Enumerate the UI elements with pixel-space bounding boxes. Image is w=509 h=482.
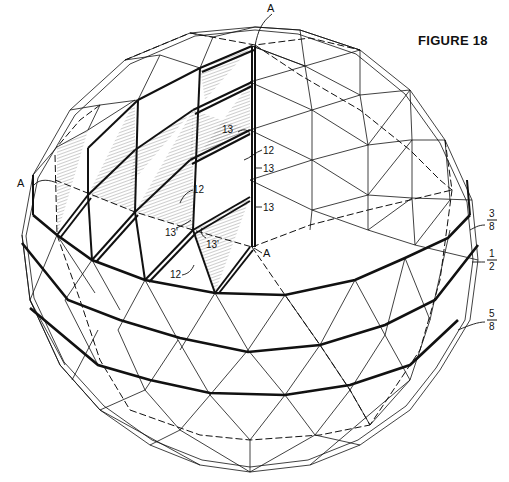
part-label-12-c: 12 [170, 269, 182, 280]
fraction-3-8: 3 8 [487, 208, 497, 232]
section-mark-a-top: A [267, 2, 275, 14]
section-mark-a-left: A [17, 177, 25, 189]
fraction-5-8: 5 8 [487, 308, 497, 332]
fraction-1-2: 1 2 [487, 248, 497, 272]
panel-strips [33, 46, 470, 293]
part-label-12-b: 12 [193, 184, 205, 195]
fraction-numerator: 3 [489, 208, 495, 219]
section-mark-a-bottom: A [263, 247, 271, 259]
figure-title: FIGURE 18 [418, 33, 488, 48]
geodesic-sphere-figure: A A A 13 12 13 13 12 13' 13' 12 3 8 1 2 … [0, 0, 509, 482]
fraction-denominator: 8 [489, 321, 495, 332]
part-label-12-a: 12 [263, 145, 275, 156]
part-label-13-prime-a: 13' [165, 227, 178, 238]
fraction-numerator: 5 [489, 308, 495, 319]
part-label-13-prime-b: 13' [206, 239, 219, 250]
part-label-13-b: 13 [263, 163, 275, 174]
fraction-denominator: 2 [489, 261, 495, 272]
fraction-numerator: 1 [489, 248, 495, 259]
part-label-13-a: 13 [222, 124, 234, 135]
fraction-labels: 3 8 1 2 5 8 [487, 208, 497, 332]
fraction-denominator: 8 [489, 221, 495, 232]
part-label-13-c: 13 [263, 202, 275, 213]
dashed-great-circles [55, 33, 452, 440]
sphere-drawing: A A A 13 12 13 13 12 13' 13' 12 3 8 1 2 … [0, 0, 509, 482]
